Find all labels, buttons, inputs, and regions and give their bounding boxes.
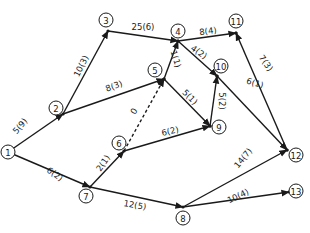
edge-2-3 — [63, 31, 108, 114]
node-label: 4 — [175, 27, 180, 37]
network-diagram: 5(9)6(2)10(3)8(3)25(6)1(1)8(4)4(2)05(1)5… — [0, 0, 310, 233]
edge-5-9 — [164, 79, 210, 126]
edge-label: 14(7) — [232, 146, 254, 170]
edge-label: 6(1) — [245, 76, 265, 91]
node-label: 7 — [83, 192, 88, 202]
edge-label: 10(3) — [71, 54, 90, 79]
node-3: 3 — [99, 13, 113, 27]
edge-endpoint-dot — [234, 31, 237, 34]
node-11: 11 — [229, 14, 243, 28]
node-1: 1 — [1, 145, 15, 159]
edge-label: 25(6) — [132, 22, 155, 32]
edge-endpoint-dot — [208, 124, 211, 127]
node-2: 2 — [49, 101, 63, 115]
node-label: 1 — [5, 148, 10, 158]
node-4: 4 — [171, 24, 185, 38]
node-label: 11 — [231, 17, 242, 27]
edge-6-5 — [124, 79, 164, 151]
edge-label: 12(5) — [123, 198, 147, 212]
edge-label: 8(3) — [104, 78, 124, 93]
edge-label: 6(2) — [45, 165, 65, 183]
node-7: 7 — [79, 189, 93, 203]
edge-label: 0 — [128, 106, 139, 116]
node-label: 13 — [291, 187, 302, 197]
node-label: 6 — [116, 139, 121, 149]
node-label: 5 — [152, 66, 157, 76]
node-9: 9 — [212, 120, 226, 134]
edge-12-11 — [236, 33, 287, 150]
edge-label: 1(1) — [169, 49, 184, 69]
edge-label: 5(1) — [180, 87, 199, 106]
node-label: 3 — [103, 16, 108, 26]
edge-label: 7(3) — [257, 53, 275, 73]
node-6: 6 — [112, 136, 126, 150]
node-label: 9 — [216, 123, 221, 133]
node-12: 12 — [289, 148, 303, 162]
diagram-svg: 5(9)6(2)10(3)8(3)25(6)1(1)8(4)4(2)05(1)5… — [0, 0, 310, 233]
edge-endpoint-dot — [285, 148, 288, 151]
edge-9-10 — [210, 76, 217, 126]
edge-label: 5(9) — [11, 116, 30, 136]
edge-label: 4(2) — [189, 43, 209, 61]
node-13: 13 — [289, 184, 303, 198]
node-5: 5 — [148, 63, 162, 77]
edge-label: 5(2) — [217, 92, 227, 109]
edges-layer — [8, 29, 291, 208]
node-label: 10 — [216, 62, 227, 72]
edge-label: 2(1) — [94, 153, 112, 173]
node-8: 8 — [176, 211, 190, 225]
node-label: 8 — [180, 214, 185, 224]
node-10: 10 — [214, 59, 228, 73]
edge-label: 10(4) — [226, 187, 251, 206]
node-label: 2 — [53, 104, 58, 114]
edge-3-4 — [108, 31, 178, 41]
node-label: 12 — [291, 151, 302, 161]
